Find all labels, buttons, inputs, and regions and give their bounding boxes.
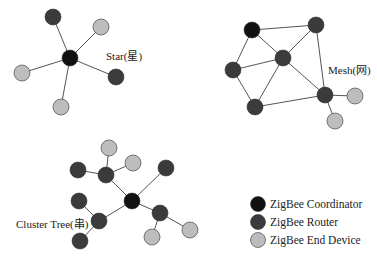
legend-end-device-icon — [251, 233, 266, 248]
cluster-tree-router-node — [158, 160, 174, 176]
legend-router-icon — [251, 215, 266, 230]
mesh-coordinator-node — [244, 22, 260, 38]
cluster-tree-router-node — [71, 193, 87, 209]
star-end-node — [93, 19, 109, 35]
mesh-edge-r2-r5 — [283, 58, 325, 95]
cluster-tree-router-node — [152, 205, 168, 221]
cluster-tree-label: Cluster Tree(串) — [16, 218, 89, 231]
cluster-tree-coordinator-node — [124, 193, 140, 209]
mesh-router-node — [317, 87, 333, 103]
mesh-router-node — [247, 99, 263, 115]
star-end-node — [53, 99, 69, 115]
mesh-edge-r2-r4 — [255, 58, 283, 107]
cluster-tree-router-node — [91, 213, 107, 229]
star-router-node — [45, 9, 61, 25]
mesh-router-node — [275, 50, 291, 66]
mesh-edge-c-r1 — [252, 25, 316, 30]
cluster-tree-router-node — [70, 162, 86, 178]
star-router-node — [108, 69, 124, 85]
topology-diagram: Star(星) Mesh(网) Cluster Tree(串) ZigBee C… — [0, 0, 377, 258]
star-end-node — [14, 65, 30, 81]
mesh-label: Mesh(网) — [328, 64, 371, 77]
legend-coordinator-label: ZigBee Coordinator — [270, 198, 362, 211]
legend: ZigBee Coordinator ZigBee Router ZigBee … — [251, 197, 363, 248]
star-coordinator-node — [62, 50, 78, 66]
mesh-edge-r4-r5 — [255, 95, 325, 107]
cluster-tree-end-node — [101, 140, 117, 156]
star-label: Star(星) — [106, 50, 142, 63]
mesh-edge-r1-r5 — [316, 25, 325, 95]
legend-end-device-label: ZigBee End Device — [270, 234, 361, 247]
legend-coordinator-icon — [251, 197, 266, 212]
mesh-router-node — [225, 62, 241, 78]
mesh-end-node — [327, 113, 343, 129]
cluster-tree-end-node — [182, 222, 198, 238]
legend-router-label: ZigBee Router — [270, 216, 338, 229]
cluster-tree-router-node — [98, 167, 114, 183]
mesh-end-node — [347, 88, 363, 104]
mesh-router-node — [308, 17, 324, 33]
cluster-tree-router-node — [72, 233, 88, 249]
cluster-tree-end-node — [125, 155, 141, 171]
nodes-layer — [14, 9, 363, 249]
cluster-tree-end-node — [144, 229, 160, 245]
